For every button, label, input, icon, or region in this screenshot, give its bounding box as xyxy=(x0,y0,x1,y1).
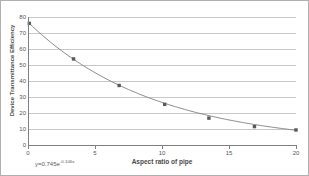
x-axis-tick-label: 20 xyxy=(286,150,306,156)
data-point-marker xyxy=(207,116,210,119)
data-point-marker xyxy=(294,128,297,131)
x-axis-tick xyxy=(229,146,230,149)
x-axis-tick xyxy=(162,146,163,149)
chart-container: 01020304050607080 Device Transmittance E… xyxy=(0,0,309,176)
y-axis-line xyxy=(28,17,29,146)
y-axis-tick-label: 10 xyxy=(2,126,26,132)
trendline-path xyxy=(28,22,296,130)
equation-exponent: -0.106x xyxy=(60,159,75,164)
x-axis-tick-label: 5 xyxy=(85,150,105,156)
data-series-layer xyxy=(28,17,296,145)
x-axis-tick-label: 10 xyxy=(152,150,172,156)
x-axis-tick-label: 15 xyxy=(219,150,239,156)
trendline-equation-label: y=0.745e-0.106x xyxy=(35,159,75,167)
data-point-markers xyxy=(28,22,298,132)
data-point-marker xyxy=(72,57,75,60)
x-axis-tick-label: 0 xyxy=(18,150,38,156)
y-axis-tick-label: 0 xyxy=(2,142,26,148)
plot-area xyxy=(28,17,296,145)
x-axis-tick xyxy=(296,146,297,149)
data-point-marker xyxy=(253,125,256,128)
x-axis-tick xyxy=(95,146,96,149)
equation-base: y=0.745e xyxy=(35,161,60,167)
data-point-marker xyxy=(117,84,120,87)
y-axis-title: Device Transmittance Efficiency xyxy=(9,16,16,126)
x-axis-tick xyxy=(28,146,29,149)
data-point-marker xyxy=(163,103,166,106)
